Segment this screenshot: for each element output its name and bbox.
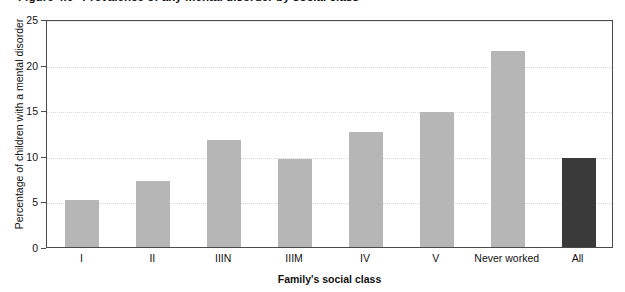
- y-tick-mark: [41, 248, 46, 249]
- y-axis: Percentage of children with a mental dis…: [0, 0, 46, 268]
- y-tick-label: 5: [32, 197, 38, 207]
- bar: [278, 159, 312, 247]
- bar: [491, 51, 525, 247]
- x-tick-label: V: [432, 252, 439, 264]
- x-tick-label: Never worked: [474, 252, 539, 264]
- bar: [65, 200, 99, 247]
- bar: [562, 158, 596, 247]
- x-tick-label: I: [80, 252, 83, 264]
- y-tick-label: 25: [26, 15, 38, 25]
- x-tick-label: All: [572, 252, 584, 264]
- x-tick-label: IIIM: [285, 252, 303, 264]
- y-tick-label: 20: [26, 61, 38, 71]
- bar: [349, 132, 383, 247]
- bar: [207, 140, 241, 247]
- x-tick-label: II: [149, 252, 155, 264]
- bar-chart: Percentage of children with a mental dis…: [0, 0, 625, 292]
- bar: [136, 181, 170, 247]
- y-tick-label: 10: [26, 152, 38, 162]
- x-tick-label: IIIN: [215, 252, 231, 264]
- x-axis-tick-labels: IIIIIINIIIMIVVNever workedAll: [46, 252, 613, 268]
- y-tick-label: 0: [32, 243, 38, 253]
- plot-area: [46, 20, 613, 248]
- bar: [420, 112, 454, 247]
- bar-group: [47, 21, 612, 247]
- y-axis-title: Percentage of children with a mental dis…: [13, 9, 25, 239]
- x-axis-title: Family's social class: [46, 273, 613, 285]
- y-tick-label: 15: [26, 106, 38, 116]
- x-tick-label: IV: [360, 252, 370, 264]
